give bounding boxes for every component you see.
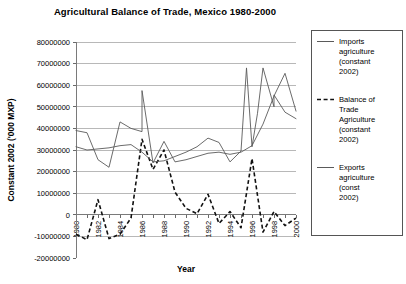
y-tick-label: 40000000 <box>37 124 70 133</box>
x-tick-label: 1998 <box>270 221 279 238</box>
legend-label-0: agriculture <box>339 47 374 56</box>
x-tick-label: 1988 <box>160 221 169 238</box>
y-tick-label: 0 <box>66 211 70 220</box>
y-tick-label: 60000000 <box>37 81 70 90</box>
y-tick-label: 50000000 <box>37 103 70 112</box>
y-tick-label: 10000000 <box>37 189 70 198</box>
x-tick-label: 1982 <box>94 221 103 238</box>
legend-label-1: Agriculture <box>339 115 375 124</box>
x-tick-label: 1996 <box>248 221 257 238</box>
legend-label-1: 2002) <box>339 135 359 144</box>
legend-label-0: (constant <box>339 57 371 66</box>
series-lines <box>76 68 296 240</box>
x-tick-label: 1984 <box>116 221 125 238</box>
y-tick-label: 30000000 <box>37 146 70 155</box>
series-line-0 <box>76 73 296 167</box>
chart-canvas: 8000000070000000600000005000000040000000… <box>0 0 406 284</box>
x-tick-label: 1992 <box>204 221 213 238</box>
y-tick-label: 70000000 <box>37 59 70 68</box>
legend-label-2: 2002) <box>339 193 359 202</box>
y-tick-label: -10000000 <box>34 232 70 241</box>
legend-label-0: Imports <box>339 37 365 46</box>
legend-label-0: 2002) <box>339 67 359 76</box>
y-tick-label: -20000000 <box>34 254 70 263</box>
y-tick-label: 20000000 <box>37 167 70 176</box>
chart-legend: Importsagriculture(constant2002)Balance … <box>311 30 402 235</box>
x-tick-label: 2000 <box>292 221 301 238</box>
legend-label-1: (constant <box>339 125 371 134</box>
x-tick-label: 1986 <box>138 221 147 238</box>
y-axis-title: Constant 2002 ('000 MXP) <box>6 98 16 201</box>
x-tick-label: 1994 <box>226 221 235 238</box>
x-axis-title: Year <box>177 264 196 274</box>
legend-label-2: (const <box>339 183 361 192</box>
y-tick-label: 80000000 <box>37 38 70 47</box>
x-tick-label: 1990 <box>182 221 191 238</box>
chart-page: Agricultural Balance of Trade, Mexico 19… <box>0 0 406 284</box>
chart-svg: 8000000070000000600000005000000040000000… <box>0 0 406 284</box>
legend-label-2: agriculture <box>339 173 374 182</box>
legend-label-1: Balance of <box>339 95 376 104</box>
y-axis-ticks: 8000000070000000600000005000000040000000… <box>34 38 76 263</box>
legend-label-1: Trade <box>339 105 359 114</box>
series-line-2 <box>76 68 296 162</box>
legend-label-2: Exports <box>339 163 365 172</box>
